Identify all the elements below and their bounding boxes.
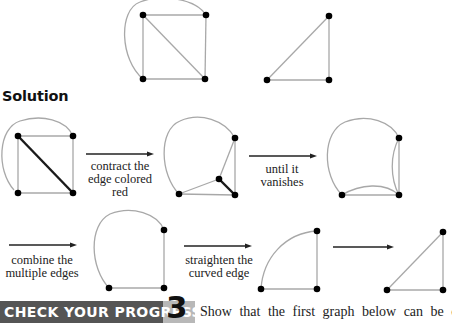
arrow-step-1	[86, 152, 154, 157]
step-caption-2: until it vanishes	[247, 163, 317, 189]
step-caption-4: straighten the curved edge	[178, 254, 260, 280]
step-caption-1: contract the edge colored red	[80, 160, 160, 199]
highlighted-edge	[18, 136, 73, 193]
banner-number: 3	[166, 292, 188, 323]
problem-graph-triangle	[267, 16, 329, 80]
caption-line: vanishes	[247, 176, 317, 189]
caption-line: red	[80, 186, 160, 199]
solution-graph-4-nodes	[106, 227, 168, 292]
step-caption-3: combine the multiple edges	[2, 254, 82, 280]
caption-line: multiple edges	[2, 267, 82, 280]
solution-graph-3	[327, 118, 399, 195]
solution-graph-5-nodes	[258, 228, 321, 293]
exercise-text: Show that the first graph below can be c…	[200, 303, 452, 321]
arrow-step-4	[184, 244, 252, 249]
solution-graph-4	[94, 210, 164, 288]
highlighted-edge	[219, 179, 235, 195]
arrow-step-5	[333, 245, 394, 250]
arrow-step-2	[249, 154, 317, 159]
arrow-step-3	[9, 243, 77, 248]
section-heading-solution: Solution	[2, 88, 68, 104]
problem-graph-square	[125, 0, 206, 79]
solution-graph-final	[387, 232, 443, 290]
solution-graph-5	[261, 231, 317, 289]
caption-line: curved edge	[178, 267, 260, 280]
